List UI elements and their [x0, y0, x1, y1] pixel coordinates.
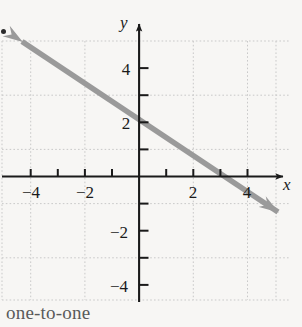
- x-tick-label-neg2: −2: [73, 184, 97, 201]
- y-tick-label-2: 2: [117, 115, 135, 132]
- x-axis: [2, 169, 283, 177]
- y-axis-label: y: [120, 14, 128, 31]
- y-tick-label-neg4: −4: [105, 278, 133, 295]
- grid-horizontal: [2, 41, 289, 300]
- y-axis: [139, 24, 148, 302]
- x-axis-label: x: [283, 176, 291, 193]
- coordinate-plane: [0, 0, 302, 327]
- y-tick-label-neg2: −2: [105, 224, 133, 241]
- figure-caption: one-to-one: [6, 303, 90, 322]
- x-tick-label-2: 2: [184, 184, 202, 201]
- y-tick-label-4: 4: [117, 61, 135, 78]
- x-tick-label-4: 4: [238, 184, 256, 201]
- x-tick-label-neg4: −4: [19, 184, 43, 201]
- graph-figure: y x −4 −2 2 4 4 2 −2 −4 one-to-one: [0, 0, 302, 327]
